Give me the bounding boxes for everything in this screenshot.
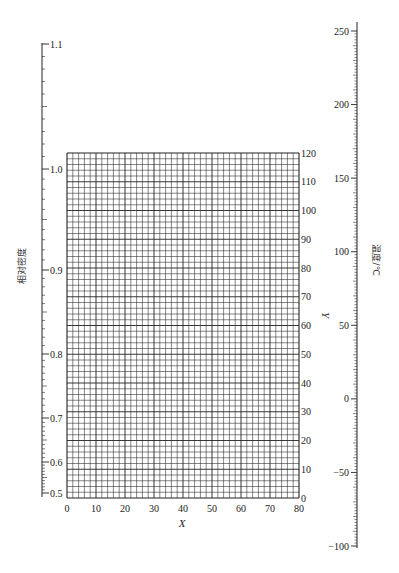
right-scale-tick-label: 0 — [344, 393, 349, 404]
x-tick-label: 30 — [149, 503, 159, 514]
y-tick-label: 0 — [301, 493, 306, 504]
right-scale-tick-label: −100 — [328, 541, 349, 552]
x-tick-label: 80 — [294, 503, 304, 514]
x-tick-label: 10 — [91, 503, 101, 514]
y-axis-title: Y — [320, 312, 332, 320]
y-tick-label: 100 — [301, 205, 316, 216]
x-tick-label: 20 — [120, 503, 130, 514]
temperature-scale: 250200150100500−50−100 — [328, 22, 357, 552]
left-scale-tick-label: 0.9 — [50, 265, 63, 276]
nomogram-chart: 1.11.00.90.80.70.60.5 01020304050607080 … — [0, 0, 399, 573]
right-scale-tick-label: 200 — [334, 99, 349, 110]
y-tick-label: 20 — [301, 435, 311, 446]
y-tick-label: 90 — [301, 234, 311, 245]
x-axis-title: X — [178, 517, 187, 529]
left-scale-tick-label: 0.6 — [50, 457, 63, 468]
y-tick-label: 30 — [301, 406, 311, 417]
x-tick-label: 50 — [207, 503, 217, 514]
y-tick-label: 50 — [301, 349, 311, 360]
left-scale-tick-label: 0.5 — [50, 488, 63, 499]
right-scale-tick-label: −50 — [333, 467, 349, 478]
right-scale-tick-label: 50 — [339, 320, 349, 331]
y-tick-label: 80 — [301, 263, 311, 274]
y-tick-label: 110 — [301, 176, 316, 187]
right-scale-tick-label: 150 — [334, 173, 349, 184]
relative-density-scale: 1.11.00.90.80.70.60.5 — [42, 39, 63, 499]
x-axis-tick-labels: 01020304050607080 — [65, 503, 305, 514]
right-axis-title: 温度/℃ — [371, 244, 382, 275]
left-scale-tick-label: 1.1 — [50, 39, 63, 50]
right-scale-tick-label: 250 — [334, 26, 349, 37]
left-scale-tick-label: 0.7 — [50, 413, 63, 424]
x-tick-label: 0 — [65, 503, 70, 514]
y-tick-label: 70 — [301, 291, 311, 302]
y-tick-label: 120 — [301, 148, 316, 159]
y-tick-label: 60 — [301, 320, 311, 331]
x-tick-label: 40 — [178, 503, 188, 514]
y-axis-tick-labels: 0102030405060708090100110120 — [301, 148, 316, 504]
right-scale-tick-label: 100 — [334, 246, 349, 257]
x-tick-label: 60 — [236, 503, 246, 514]
y-tick-label: 10 — [301, 464, 311, 475]
left-scale-tick-label: 1.0 — [50, 164, 63, 175]
left-axis-title: 相对密度 — [16, 248, 27, 284]
left-scale-tick-label: 0.8 — [50, 349, 63, 360]
y-tick-label: 40 — [301, 378, 311, 389]
xy-grid — [67, 153, 299, 498]
x-tick-label: 70 — [265, 503, 275, 514]
